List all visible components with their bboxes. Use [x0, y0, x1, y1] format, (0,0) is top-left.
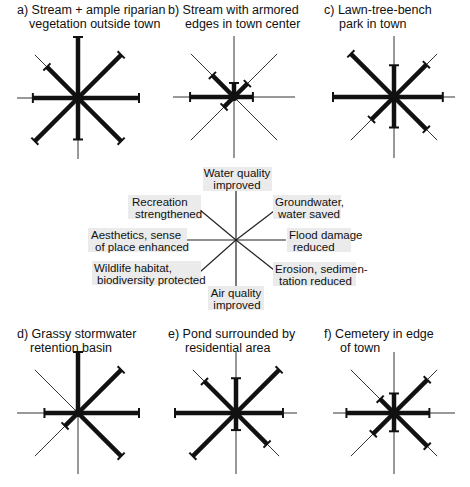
svg-text:reduced: reduced: [293, 241, 335, 253]
svg-text:b) Stream with armored: b) Stream with armored: [168, 3, 299, 17]
svg-text:a) Stream + ample riparian: a) Stream + ample riparian: [17, 3, 165, 17]
bar-nw: [205, 382, 236, 413]
legend-label-aesthetics: Aesthetics, sense of place enhanced: [88, 228, 189, 253]
bar-nw: [47, 67, 78, 98]
panel-f-star: [333, 352, 455, 474]
legend-key: Water quality improved Groundwater, wate…: [88, 167, 368, 311]
svg-text:c) Lawn-tree-bench: c) Lawn-tree-bench: [324, 3, 432, 17]
svg-text:Aesthetics, sense: Aesthetics, sense: [91, 229, 181, 241]
panel-e-star: [175, 352, 297, 474]
legend-axis-sw: [200, 240, 236, 272]
center-dot: [74, 94, 82, 102]
bar-sw: [35, 98, 78, 141]
legend-label-groundwater: Groundwater, water saved: [273, 195, 344, 220]
svg-text:tation reduced: tation reduced: [279, 275, 352, 287]
panel-a-star: [17, 37, 139, 159]
bar-ne: [236, 370, 279, 413]
bar-ne: [394, 65, 426, 97]
bar-ne: [394, 380, 427, 413]
panel-d-star: [17, 352, 139, 474]
axis-line-nw: [35, 370, 78, 413]
panel-a-title: a) Stream + ample riparian vegetation ou…: [17, 3, 165, 31]
svg-text:edges in town center: edges in town center: [185, 17, 300, 31]
svg-text:f) Cemetery in edge: f) Cemetery in edge: [324, 327, 434, 341]
svg-text:Wildlife habitat,: Wildlife habitat,: [94, 262, 172, 274]
legend-label-wildlife: Wildlife habitat, biodiversity protected: [92, 261, 206, 286]
panel-b-star: [173, 36, 295, 158]
svg-text:Air quality: Air quality: [211, 287, 262, 299]
bar-se: [394, 97, 426, 129]
bar-sw: [372, 97, 394, 119]
svg-text:Flood damage: Flood damage: [289, 229, 363, 241]
svg-text:residential area: residential area: [185, 341, 271, 355]
svg-text:Recreation: Recreation: [132, 196, 188, 208]
svg-text:Water quality: Water quality: [204, 167, 271, 179]
bar-ne: [78, 55, 121, 98]
svg-text:e) Pond surrounded by: e) Pond surrounded by: [168, 327, 296, 341]
legend-axes: [187, 191, 286, 287]
svg-text:Groundwater,: Groundwater,: [275, 196, 344, 208]
center-dot: [230, 93, 238, 101]
bar-nw: [212, 75, 234, 97]
svg-text:retention basin: retention basin: [30, 341, 112, 355]
bar-nw: [351, 54, 394, 97]
svg-text:vegetation outside town: vegetation outside town: [29, 17, 160, 31]
svg-text:biodiversity protected: biodiversity protected: [97, 274, 206, 286]
legend-label-erosion: Erosion, sedimen- tation reduced: [273, 262, 368, 287]
svg-text:of place enhanced: of place enhanced: [95, 241, 189, 253]
panel-c-star: [333, 36, 455, 158]
panel-f-title: f) Cemetery in edge of town: [324, 327, 434, 355]
svg-text:Erosion, sedimen-: Erosion, sedimen-: [275, 263, 368, 275]
svg-text:d) Grassy stormwater: d) Grassy stormwater: [17, 327, 136, 341]
center-dot: [74, 409, 82, 417]
svg-text:improved: improved: [213, 179, 260, 191]
bar-sw: [193, 413, 236, 456]
legend-label-recreation: Recreation strengthened: [128, 195, 202, 220]
center-dot: [390, 93, 398, 101]
axis-line-se: [234, 97, 277, 140]
bar-se: [78, 413, 121, 456]
panel-e-title: e) Pond surrounded by residential area: [168, 327, 296, 355]
panel-c-title: c) Lawn-tree-bench park in town: [324, 3, 432, 31]
bar-ne: [78, 370, 121, 413]
legend-axis-ne: [236, 211, 274, 240]
legend-label-air-quality: Air quality improved: [208, 286, 264, 311]
legend-label-flood-damage: Flood damage reduced: [287, 228, 363, 253]
svg-text:of town: of town: [340, 341, 380, 355]
legend-axis-nw: [200, 210, 236, 240]
center-dot: [232, 409, 240, 417]
svg-text:park in town: park in town: [339, 17, 406, 31]
svg-text:water saved: water saved: [277, 208, 340, 220]
svg-text:improved: improved: [213, 299, 260, 311]
bar-se: [78, 98, 121, 141]
radial-diagram: a) Stream + ample riparian vegetation ou…: [0, 0, 470, 487]
bar-se: [394, 413, 427, 446]
panel-b-title: b) Stream with armored edges in town cen…: [168, 3, 300, 31]
bar-se: [236, 413, 267, 444]
legend-label-water-quality: Water quality improved: [203, 167, 272, 191]
legend-axis-se: [236, 240, 274, 270]
center-dot: [390, 409, 398, 417]
panel-d-title: d) Grassy stormwater retention basin: [17, 327, 136, 355]
svg-text:strengthened: strengthened: [135, 208, 202, 220]
